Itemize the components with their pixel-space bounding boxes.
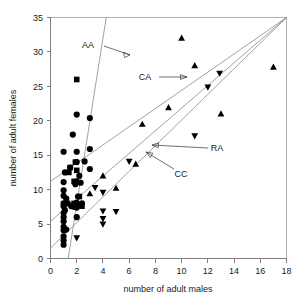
data-point-square [77,194,83,200]
fit-line-cc [51,18,287,249]
cc-leader-arrow [146,152,153,158]
data-point-circle [78,180,84,186]
data-point-circle [74,214,80,220]
data-point-circle [74,111,80,117]
data-point-circle [87,166,93,172]
data-point-triangle-down [73,235,80,241]
data-point-circle [61,242,67,248]
data-point-triangle-down [191,133,198,139]
data-point-square [67,165,73,171]
data-point-circle [70,131,76,137]
x-tick-label-10: 10 [177,266,187,276]
data-point-triangle-down [126,159,133,165]
data-point-circle [87,115,93,121]
data-point-circle [61,149,67,155]
x-axis-title: number of adult males [123,284,213,294]
plot-canvas: 0 5 10 15 20 25 30 35 0 2 4 6 8 10 [0,0,298,304]
x-tick-label-4: 4 [100,266,105,276]
data-point-triangle-down [216,71,223,77]
x-tick-label-16: 16 [255,266,265,276]
line-label-aa: AA [82,40,94,50]
x-tick-label-12: 12 [203,266,213,276]
y-axis-title: number of adult females [8,89,18,186]
data-point-triangle-down [100,221,107,227]
y-tick-label-25: 25 [33,82,43,92]
data-point-circle [61,218,67,224]
y-tick-label-5: 5 [38,219,43,229]
data-point-triangle-down [100,216,107,222]
data-point-square [79,203,85,209]
line-label-ra: RA [211,143,224,153]
data-point-circle [81,158,87,164]
line-label-cc: CC [175,169,188,179]
data-point-triangle-up [132,161,139,167]
data-point-triangle-up [178,35,185,41]
regression-lines [51,18,287,259]
data-point-triangle-up [191,62,198,68]
x-tick-label-8: 8 [153,266,158,276]
x-tick-label-6: 6 [127,266,132,276]
data-point-triangle-up [139,121,146,127]
y-tick-label-10: 10 [33,185,43,195]
scatter-plot-figure: 0 5 10 15 20 25 30 35 0 2 4 6 8 10 [0,0,298,304]
y-tick-label-30: 30 [33,47,43,57]
data-point-triangle-down [113,209,120,215]
axes-lines [51,18,287,259]
data-point-square [73,159,79,165]
x-axis-ticks: 0 2 4 6 8 10 12 14 16 18 [48,259,292,276]
data-points [61,35,277,248]
data-point-triangle-down [100,208,107,214]
x-tick-label-2: 2 [74,266,79,276]
x-tick-label-14: 14 [229,266,239,276]
data-point-circle [61,179,67,185]
data-point-circle [61,187,67,193]
data-point-circle [76,173,82,179]
data-point-triangle-down [92,185,99,191]
data-point-circle [61,227,67,233]
y-axis-ticks: 0 5 10 15 20 25 30 35 [33,13,51,264]
data-point-square [74,168,80,174]
plot-frame [51,18,287,259]
data-point-triangle-up [113,185,120,191]
annotation-leaders [104,46,208,169]
data-point-square [71,179,77,185]
cc-leader-line [146,152,174,169]
data-point-triangle-up [218,110,225,116]
ra-leader-line [152,145,208,148]
data-point-triangle-up [165,104,172,110]
data-point-square [74,77,80,83]
y-tick-label-20: 20 [33,116,43,126]
data-point-triangle-up [270,63,277,69]
data-point-triangle-up [86,190,93,196]
data-point-square [66,170,72,176]
x-tick-label-18: 18 [281,266,291,276]
x-tick-label-0: 0 [48,266,53,276]
data-point-square [71,201,77,207]
y-tick-label-0: 0 [38,254,43,264]
data-point-circle [87,146,93,152]
data-point-circle [74,149,80,155]
data-point-triangle-up [100,172,107,178]
line-label-ca: CA [139,72,152,82]
y-tick-label-15: 15 [33,150,43,160]
y-tick-label-35: 35 [33,13,43,23]
